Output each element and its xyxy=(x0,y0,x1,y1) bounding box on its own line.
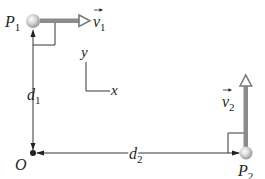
origin-point xyxy=(30,150,36,156)
label-d1: d1 xyxy=(27,86,41,106)
axes-indicator xyxy=(86,62,110,91)
label-p2: P2 xyxy=(237,162,253,179)
label-y-axis: y xyxy=(79,44,88,60)
label-origin: O xyxy=(15,156,27,173)
label-p1: P1 xyxy=(4,13,20,33)
velocity-v1-arrow xyxy=(40,15,90,27)
label-x-axis: x xyxy=(110,82,118,98)
velocity-v2-arrow xyxy=(240,75,252,148)
label-v2: v2 xyxy=(222,88,235,113)
label-v1: v1 xyxy=(93,8,106,33)
particle-p1 xyxy=(26,14,40,28)
label-d2: d2 xyxy=(129,145,143,165)
particle-p2 xyxy=(240,147,253,160)
svg-text:v1: v1 xyxy=(93,13,106,33)
svg-text:v2: v2 xyxy=(222,93,235,113)
kinematics-diagram: P1 v1 y x d1 d2 v2 O P2 xyxy=(0,0,265,179)
